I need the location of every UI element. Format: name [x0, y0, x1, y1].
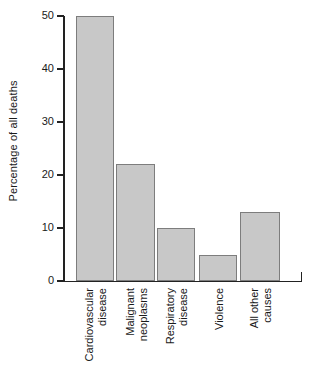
x-axis-label: All othercauses — [247, 288, 273, 372]
x-axis-label-line: All other — [247, 288, 261, 372]
bar — [76, 16, 114, 281]
x-axis-label: Malignantneoplasms — [123, 288, 149, 372]
bar — [199, 255, 237, 282]
x-axis-label-line: neoplasms — [136, 288, 150, 372]
x-axis-label-line: Cardiovascular — [82, 288, 96, 372]
x-axis-label-line: Malignant — [123, 288, 137, 372]
x-axis-label: Respiratorydisease — [163, 288, 189, 372]
x-axis-label: Violence — [212, 288, 225, 372]
x-axis-label-line: causes — [260, 288, 274, 372]
bar — [240, 212, 280, 281]
bar — [116, 164, 155, 281]
x-axis-label-line: Violence — [212, 288, 226, 372]
x-axis-label-line: Respiratory — [163, 288, 177, 372]
x-axis-label: Cardiovasculardisease — [82, 288, 108, 372]
bar — [157, 228, 195, 281]
x-axis-label-line: disease — [176, 288, 190, 372]
bar-chart-figure: Percentage of all deaths 01020304050 Car… — [0, 0, 322, 373]
x-axis-label-line: disease — [95, 288, 109, 372]
